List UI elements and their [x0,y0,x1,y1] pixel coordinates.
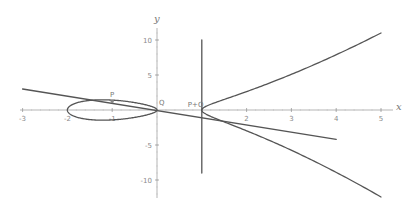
y-tick-label: -10 [141,177,152,185]
point-label-q: Q [159,99,165,107]
x-tick-label: 5 [379,115,383,123]
x-tick-label: 2 [244,115,248,123]
y-tick-label: -5 [145,142,152,150]
y-axis-label: y [153,13,160,24]
x-tick-label: -2 [64,115,71,123]
x-axis-label: x [396,101,402,112]
y-tick-label: 10 [143,37,152,45]
x-tick-label: -1 [109,115,116,123]
y-tick-label: 5 [148,72,152,80]
elliptic-curve-plot: -3-2-12345 x 105-5-10 y PQP+Q [0,0,419,211]
elliptic-curve-lower-branch [202,110,381,197]
elliptic-curve-upper-branch [202,33,381,110]
x-tick-label: -3 [19,115,26,123]
x-tick-label: 3 [289,115,293,123]
x-tick-label: 4 [334,115,339,123]
point-label-pplusq: P+Q [188,101,204,109]
point-p-marker [111,100,114,103]
point-label-p: P [110,91,114,99]
